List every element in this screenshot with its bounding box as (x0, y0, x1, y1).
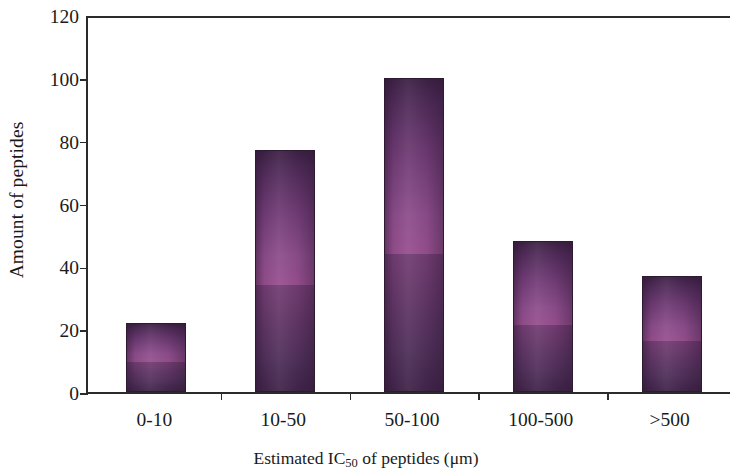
bar (642, 276, 702, 392)
bar-shading (127, 324, 185, 391)
bar (255, 150, 315, 392)
x-axis-title-prefix: Estimated IC (253, 448, 345, 468)
x-axis-tick (221, 392, 223, 400)
y-axis-tick-label: 40 (60, 259, 80, 279)
x-axis-title-subscript: 50 (345, 456, 358, 470)
x-axis-tick (350, 392, 352, 400)
bar-chart-figure: Amount of peptides 020406080100120 Estim… (0, 0, 732, 474)
bar-shading (643, 277, 701, 391)
x-axis-category-label: 0-10 (137, 410, 173, 430)
x-axis-category-label: 10-50 (260, 410, 306, 430)
y-axis-tick-label: 0 (69, 384, 79, 404)
x-axis-category-label: 50-100 (384, 410, 439, 430)
bar-shading (385, 79, 443, 391)
plot-area: 020406080100120 (86, 17, 730, 394)
y-axis-tick (80, 268, 88, 270)
x-axis-title: Estimated IC50 of peptides (μm) (0, 450, 732, 468)
x-axis-category-label: 100-500 (508, 410, 573, 430)
bar-shading (256, 151, 314, 391)
bar (513, 241, 573, 392)
y-axis-tick (80, 142, 88, 144)
y-axis-tick (80, 79, 88, 81)
y-axis-tick-label: 100 (50, 70, 79, 90)
x-axis-category-label: >500 (649, 410, 689, 430)
y-axis-tick-label: 120 (50, 7, 79, 27)
y-axis-tick (80, 393, 88, 395)
bar-shading (514, 242, 572, 391)
x-axis-title-suffix: of peptides (μm) (358, 448, 479, 468)
y-axis-tick-label: 20 (60, 321, 80, 341)
y-axis-tick (80, 330, 88, 332)
bar (126, 323, 186, 392)
y-axis-tick-label: 80 (60, 133, 80, 153)
bar (384, 78, 444, 392)
y-axis-tick (80, 205, 88, 207)
x-axis-tick (607, 392, 609, 400)
y-axis-title-text: Amount of peptides (6, 122, 28, 279)
y-axis-title: Amount of peptides (0, 0, 34, 400)
y-axis-tick-label: 60 (60, 196, 80, 216)
x-axis-tick (478, 392, 480, 400)
